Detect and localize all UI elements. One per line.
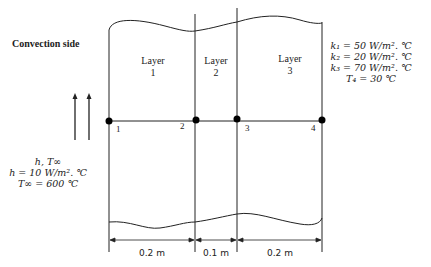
convection-arrows: [73, 93, 92, 140]
dimension-arrows: [110, 238, 321, 242]
dimension-layer-1: 0.2 m: [132, 248, 172, 258]
node-3-label: 3: [245, 123, 250, 133]
bottom-edge: [109, 213, 322, 228]
material-properties: k₁ = 50 W/m². ℃ k₂ = 20 W/m². ℃ k₃ = 70 …: [311, 40, 431, 84]
node-2-dot: [193, 117, 200, 124]
t4-value: T₄ = 30 ℃: [311, 73, 431, 84]
node-4-label: 4: [311, 123, 316, 133]
layer-2-label: Layer 2: [196, 55, 236, 79]
layer-3-label: Layer 3: [265, 53, 315, 77]
h-tinf-symbol: h, T∞: [0, 156, 96, 167]
top-edge: [109, 16, 322, 31]
dimension-layer-2: 0.1 m: [196, 248, 236, 258]
convection-side-label: Convection side: [12, 38, 80, 49]
node-2-label: 2: [180, 121, 185, 131]
node-4-dot: [319, 117, 326, 124]
k2-value: k₂ = 20 W/m². ℃: [311, 51, 431, 62]
k1-value: k₁ = 50 W/m². ℃: [311, 40, 431, 51]
convection-properties: h, T∞ h = 10 W/m². ℃ T∞ = 600 ℃: [0, 156, 96, 189]
k3-value: k₃ = 70 W/m². ℃: [311, 62, 431, 73]
h-value: h = 10 W/m². ℃: [0, 167, 96, 178]
node-1-dot: [106, 118, 113, 125]
node-1-label: 1: [116, 124, 121, 134]
node-3-dot: [234, 116, 241, 123]
dimension-layer-3: 0.2 m: [260, 248, 300, 258]
layer-1-label: Layer 1: [128, 55, 178, 79]
tinf-value: T∞ = 600 ℃: [0, 178, 96, 189]
